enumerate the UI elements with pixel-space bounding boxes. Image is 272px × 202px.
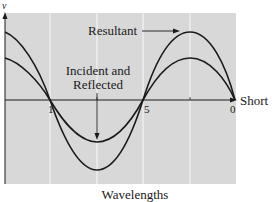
resultant-label: Resultant — [88, 24, 137, 37]
incident-label-line1: Incident and — [63, 64, 133, 77]
tick-label-0: 0 — [230, 104, 236, 115]
y-axis-label: v — [2, 1, 6, 11]
x-axis-end-label: Short — [240, 94, 268, 107]
plot-area — [5, 13, 236, 184]
tick-label-1: 1 — [48, 104, 54, 115]
tick-label-5: 5 — [144, 104, 150, 115]
standing-wave-diagram: v Resultant Incident and Reflected Short… — [0, 0, 272, 202]
x-axis-title: Wavelengths — [70, 188, 200, 201]
incident-label-line2: Reflected — [63, 78, 133, 91]
